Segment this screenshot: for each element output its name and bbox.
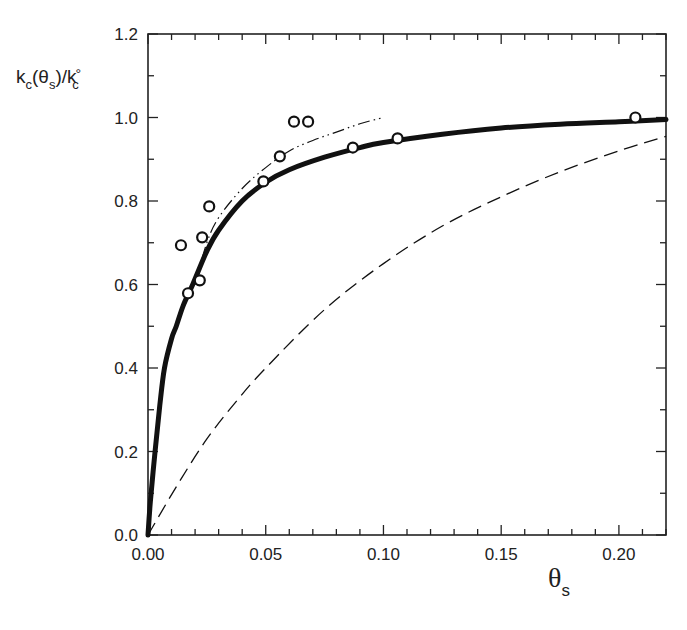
x-tick-label: 0.00 — [131, 545, 164, 564]
axis-ticks — [148, 34, 666, 535]
thick-solid-curve — [148, 120, 666, 535]
data-point-marker — [630, 113, 640, 123]
y-tick-label: 0.4 — [114, 359, 138, 378]
x-tick-label: 0.05 — [249, 545, 282, 564]
data-point-marker — [204, 201, 214, 211]
series-layer — [148, 113, 666, 536]
dashed-curve — [148, 136, 666, 535]
y-tick-label: 0.2 — [114, 443, 138, 462]
data-point-marker — [303, 117, 313, 127]
x-tick-label: 0.10 — [367, 545, 400, 564]
data-point-marker — [176, 240, 186, 250]
plot-border — [148, 34, 666, 535]
y-tick-label: 0.0 — [114, 526, 138, 545]
y-axis-label: kc(θs)/k°c — [16, 66, 81, 92]
y-tick-label: 1.0 — [114, 109, 138, 128]
chart-figure: 0.000.050.100.150.200.00.20.40.60.81.01.… — [0, 0, 687, 630]
y-tick-label: 1.2 — [114, 25, 138, 44]
data-point-marker — [289, 117, 299, 127]
data-point-marker — [195, 275, 205, 285]
x-tick-label: 0.15 — [485, 545, 518, 564]
data-point-marker — [258, 176, 268, 186]
x-tick-label: 0.20 — [602, 545, 635, 564]
plot-frame — [148, 34, 666, 535]
data-point-marker — [197, 232, 207, 242]
data-point-marker — [348, 143, 358, 153]
data-point-marker — [183, 288, 193, 298]
data-point-marker — [393, 133, 403, 143]
y-tick-label: 0.8 — [114, 192, 138, 211]
data-point-marker — [275, 151, 285, 161]
y-tick-label: 0.6 — [114, 276, 138, 295]
x-axis-label: θs — [548, 562, 570, 600]
